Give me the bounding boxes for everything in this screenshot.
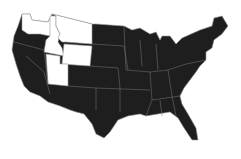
state-wyoming bbox=[62, 44, 92, 66]
state-washington bbox=[22, 14, 52, 36]
us-map-svg bbox=[0, 0, 241, 159]
us-map bbox=[0, 0, 241, 159]
